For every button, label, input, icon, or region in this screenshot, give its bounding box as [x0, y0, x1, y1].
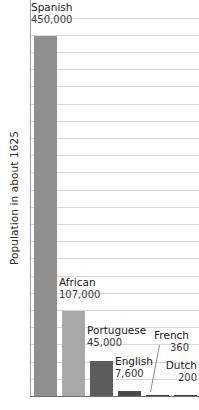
- bar-spanish: [34, 36, 57, 397]
- bar-portuguese: [90, 361, 113, 397]
- plot-area: [31, 0, 199, 397]
- y-axis-title: Population in about 1625: [0, 0, 28, 396]
- french-leader-line: [150, 345, 160, 392]
- x-axis-line: [31, 396, 199, 397]
- y-axis-title-label: Population in about 1625: [8, 131, 20, 265]
- bar-african: [62, 311, 85, 397]
- y-axis-line: [30, 0, 31, 397]
- gridline: [31, 18, 199, 19]
- bar-chart: Population in about 1625 Spanish 450,000…: [0, 0, 199, 410]
